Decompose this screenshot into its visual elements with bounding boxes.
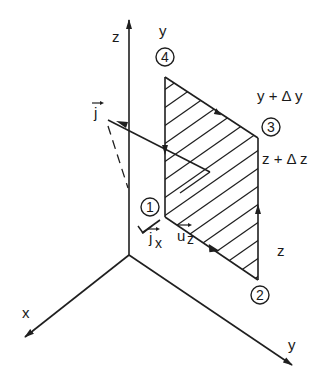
y-axis	[129, 255, 292, 365]
hatching	[150, 72, 270, 345]
j-vector-line	[108, 120, 210, 172]
edge-label-z-plus-dz: z + Δ z	[262, 150, 307, 167]
surface-element	[150, 72, 270, 345]
vector-j-label: j	[92, 101, 104, 121]
uz-subscript: z	[187, 231, 194, 247]
coordinate-axes	[25, 20, 292, 365]
x-axis-label: x	[22, 304, 30, 321]
j-inner-segment	[180, 172, 210, 193]
jx-subscript: x	[155, 235, 162, 251]
x-axis	[25, 255, 129, 337]
uz-label-text: u	[177, 227, 185, 244]
corner-4-label: 4	[161, 49, 169, 65]
edge-label-y-plus-dy: y + Δ y	[257, 87, 303, 104]
corner-3: 3	[262, 118, 280, 136]
corner-2: 2	[251, 286, 269, 304]
jx-label-text: j	[148, 229, 152, 246]
corner-4: 4	[156, 48, 174, 66]
surface-element-diagram: 4 3 2 1 z x y y y + Δ y z + Δ z z j	[0, 0, 336, 385]
y-axis-label: y	[288, 336, 296, 353]
corner-2-label: 2	[256, 287, 264, 303]
vector-jx-label: j x	[148, 227, 162, 251]
j-projection-dashed	[108, 126, 128, 188]
edge-label-z: z	[277, 242, 285, 259]
j-label-text: j	[93, 104, 97, 121]
corner-3-label: 3	[267, 119, 275, 135]
z-axis-label: z	[112, 28, 120, 45]
edge-label-y: y	[159, 22, 167, 39]
vector-uz-label: u z	[177, 223, 194, 247]
corner-1: 1	[141, 198, 159, 216]
corner-1-label: 1	[146, 199, 154, 215]
